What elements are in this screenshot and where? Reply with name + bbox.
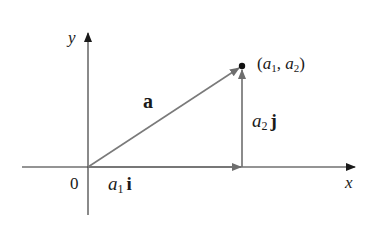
- point-a1-a2: [239, 63, 245, 69]
- point-a1: a: [263, 54, 272, 73]
- component-j-unit: j: [271, 110, 277, 131]
- vector-a-label: a: [143, 91, 153, 111]
- diagram-canvas: [0, 0, 385, 236]
- x-axis-label: x: [345, 174, 353, 191]
- component-i-coef: a: [108, 173, 118, 194]
- component-j-sub: 2: [262, 119, 268, 133]
- component-j-coef: a: [252, 110, 262, 131]
- point-a2: a: [285, 54, 294, 73]
- vector-a: [88, 68, 239, 167]
- component-i-sub: 1: [118, 182, 124, 196]
- point-sep: ,: [277, 54, 286, 73]
- component-j-label: a2j: [252, 111, 277, 132]
- component-i-label: a1i: [108, 174, 132, 195]
- point-paren-close: ): [299, 54, 305, 73]
- component-i-unit: i: [127, 173, 132, 194]
- vector-diagram: y x 0 a (a1, a2) a2j a1i: [0, 0, 385, 236]
- origin-label: 0: [70, 175, 79, 192]
- y-axis-label: y: [68, 29, 76, 46]
- point-label: (a1, a2): [257, 55, 305, 74]
